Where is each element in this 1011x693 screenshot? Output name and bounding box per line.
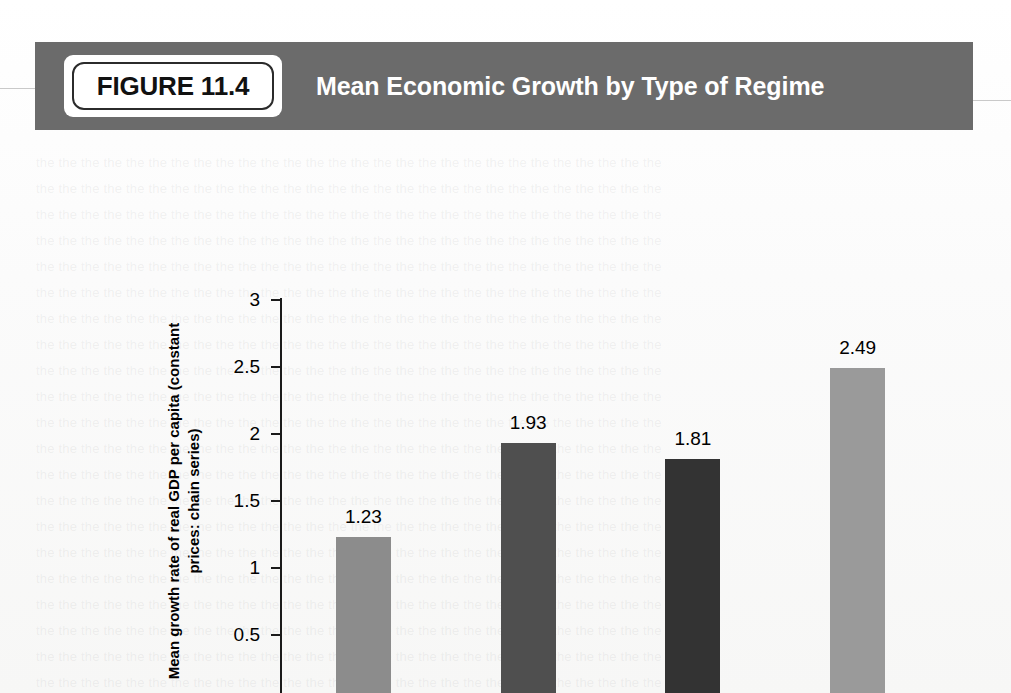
bar-value-label: 1.23: [345, 506, 382, 528]
figure-number-label: FIGURE 11.4: [97, 71, 249, 102]
bars-layer: [0, 130, 1011, 693]
bar-value-label: 1.93: [510, 412, 547, 434]
figure-banner: FIGURE 11.4 Mean Economic Growth by Type…: [35, 42, 973, 130]
bar-value-label: 1.81: [674, 428, 711, 450]
figure-number-badge: FIGURE 11.4: [64, 55, 282, 117]
bar: [336, 537, 391, 693]
figure-title: Mean Economic Growth by Type of Regime: [316, 72, 824, 101]
bar-value-label: 2.49: [839, 337, 876, 359]
bar: [665, 459, 720, 693]
bar: [501, 443, 556, 693]
bar-chart: Mean growth rate of real GDP per capita …: [0, 130, 1011, 693]
bar: [830, 368, 885, 693]
figure-page: the the the the the the the the the the …: [0, 0, 1011, 693]
